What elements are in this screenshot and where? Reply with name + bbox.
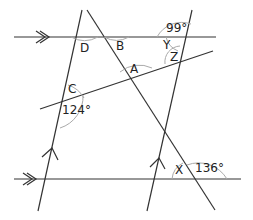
diagonal-transversal [87, 10, 215, 210]
angle-diagram: D B A 99° Y Z C 124° X 136° [0, 0, 253, 220]
label-a: A [130, 62, 139, 76]
label-136: 136° [195, 161, 224, 175]
label-x: X [175, 163, 183, 177]
label-b: B [116, 39, 124, 53]
label-d: D [80, 41, 89, 55]
slanted-line [40, 51, 213, 109]
label-c: C [68, 82, 76, 96]
label-z: Z [170, 50, 178, 64]
label-124: 124° [62, 103, 91, 117]
label-99: 99° [166, 21, 187, 35]
